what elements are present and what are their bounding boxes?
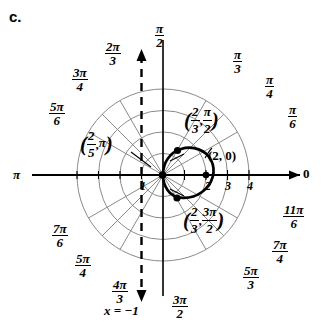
fraction-denominator: 4	[265, 86, 274, 100]
fraction-denominator: 2	[155, 35, 164, 49]
paren-close: )	[217, 208, 224, 232]
paren-close: )	[212, 108, 219, 132]
fraction: 4π3	[112, 278, 128, 305]
fraction-denominator: 3	[190, 220, 199, 237]
fraction-denominator: 4	[72, 79, 88, 93]
fraction-numerator: 11π	[283, 203, 304, 216]
fraction-numerator: π	[265, 73, 274, 86]
angle-label-5pi-over-6: 5π6	[49, 100, 65, 127]
angle-label-5pi-over-4: 5π4	[75, 252, 91, 279]
panel-label: c.	[9, 8, 22, 25]
angle-label-pi-over-4: π4	[265, 73, 274, 100]
fraction-numerator: 5π	[75, 252, 91, 265]
fraction: π4	[265, 73, 274, 100]
fraction-numerator: 5π	[49, 100, 65, 113]
pole-dot	[159, 171, 167, 179]
fraction: 25	[87, 128, 96, 161]
fraction-denominator: 6	[52, 235, 68, 249]
fraction: 7π4	[272, 238, 288, 265]
angle-label-7pi-over-4: 7π4	[272, 238, 288, 265]
fraction-numerator: 2	[87, 128, 96, 144]
fraction: π6	[288, 103, 297, 130]
fraction: 3π2	[202, 204, 218, 237]
fraction: π2	[155, 22, 164, 49]
fraction-denominator: 3	[233, 61, 242, 75]
fraction: 5π6	[49, 100, 65, 127]
point-dot-2-3-3pi-over-2	[173, 194, 180, 201]
fraction-denominator: 5	[87, 144, 96, 161]
fraction-denominator: 6	[283, 216, 304, 230]
fraction-denominator: 6	[49, 113, 65, 127]
fraction-numerator: 5π	[243, 264, 259, 277]
annotation-point-left: (25,π)	[80, 128, 113, 161]
fraction-numerator: π	[155, 22, 164, 35]
fraction-denominator: 2	[172, 306, 188, 320]
directrix-label: x = −1	[104, 303, 139, 319]
paren-open: (	[183, 208, 190, 232]
fraction: 3π2	[172, 293, 188, 320]
angle-label-3pi-over-2: 3π2	[172, 293, 188, 320]
fraction-numerator: π	[288, 103, 297, 116]
annotation-vertex-2-0: (2, 0)	[208, 148, 236, 164]
point-dot-2-0	[203, 172, 210, 179]
polar-axis-arrowhead	[289, 171, 300, 180]
fraction-numerator: π	[233, 48, 242, 61]
fraction-numerator: 3π	[202, 204, 218, 220]
angle-label-7pi-over-6: 7π6	[52, 222, 68, 249]
paren-open: (	[184, 108, 191, 132]
radial-tick-1: 1	[140, 179, 146, 194]
fraction-denominator: 4	[75, 265, 91, 279]
angle-label-3pi-over-4: 3π4	[72, 66, 88, 93]
fraction-numerator: 2π	[105, 40, 121, 53]
fraction-denominator: 3	[191, 120, 200, 137]
fraction-numerator: 7π	[52, 222, 68, 235]
fraction: 5π4	[75, 252, 91, 279]
annotation-point-lower: (23,3π2)	[183, 204, 224, 237]
radial-tick-3: 3	[225, 179, 231, 194]
annotation-point-upper: (23,π2)	[184, 104, 219, 137]
angle-value: π	[99, 135, 106, 150]
fraction-denominator: 2	[203, 120, 212, 137]
paren-open: (	[80, 132, 87, 156]
directrix-arrowhead-top	[137, 49, 147, 61]
angle-label-pi-over-3: π3	[233, 48, 242, 75]
fraction-numerator: π	[203, 104, 212, 120]
point-dot-2-3-pi-over-2	[174, 147, 181, 154]
fraction: π2	[203, 104, 212, 137]
fraction-numerator: 4π	[112, 278, 128, 291]
fraction-numerator: 2	[191, 104, 200, 120]
fraction-denominator: 3	[105, 53, 121, 67]
angle-label-2pi-over-3: 2π3	[105, 40, 121, 67]
fraction-denominator: 4	[272, 251, 288, 265]
fraction-numerator: 3π	[172, 293, 188, 306]
fraction: 3π4	[72, 66, 88, 93]
directrix-arrowhead-bottom	[137, 290, 147, 302]
radial-tick-2: 2	[205, 179, 211, 194]
polar-grid-svg	[0, 0, 326, 329]
paren-close: )	[106, 132, 113, 156]
fraction: 23	[190, 204, 199, 237]
fraction: 5π3	[243, 264, 259, 291]
fraction-denominator: 3	[243, 277, 259, 291]
fraction-denominator: 2	[202, 220, 218, 237]
fraction: π3	[233, 48, 242, 75]
fraction-denominator: 6	[288, 116, 297, 130]
angle-label-4pi-over-3: 4π3	[112, 278, 128, 305]
fraction: 7π6	[52, 222, 68, 249]
fraction: 23	[191, 104, 200, 137]
axis-label-zero: 0	[303, 166, 310, 182]
radial-tick-4: 4	[247, 179, 253, 194]
polar-graph-figure: c. 0 π 1 2 3 4 π22π33π45π67π65π44π33π25π…	[0, 0, 326, 329]
angle-label-5pi-over-3: 5π3	[243, 264, 259, 291]
angle-label-pi-over-2: π2	[155, 22, 164, 49]
fraction: 2π3	[105, 40, 121, 67]
axis-label-pi: π	[13, 167, 20, 183]
angle-label-pi-over-6: π6	[288, 103, 297, 130]
angle-label-11pi-over-6: 11π6	[283, 203, 304, 230]
fraction-numerator: 2	[190, 204, 199, 220]
fraction-numerator: 7π	[272, 238, 288, 251]
fraction-numerator: 3π	[72, 66, 88, 79]
fraction: 11π6	[283, 203, 304, 230]
